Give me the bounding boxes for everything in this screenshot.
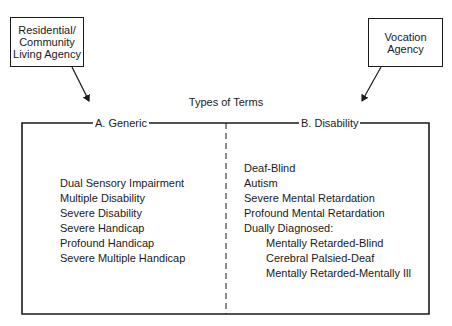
generic-terms-list: Dual Sensory Impairment Multiple Disabil… [60,176,185,266]
agency-label-line: Community [13,36,81,48]
list-item: Deaf-Blind [244,161,411,176]
list-item: Autism [244,176,411,191]
diagram-title: Types of Terms [0,96,452,108]
agency-label-line: Vocation [384,31,426,43]
disability-terms-list: Deaf-Blind Autism Severe Mental Retardat… [244,161,411,281]
list-item: Severe Disability [60,206,185,221]
list-item: Severe Multiple Handicap [60,251,185,266]
agency-label-line: Agency [384,43,426,55]
list-item: Profound Handicap [60,236,185,251]
list-item: Multiple Disability [60,191,185,206]
list-sub-item: Cerebral Palsied-Deaf [244,251,411,266]
disability-column-label: B. Disability [299,117,360,129]
list-item: Dual Sensory Impairment [60,176,185,191]
list-item: Severe Mental Retardation [244,191,411,206]
list-sub-item: Mentally Retarded-Mentally Ill [244,266,411,281]
list-item: Dually Diagnosed: [244,221,411,236]
list-item: Profound Mental Retardation [244,206,411,221]
list-sub-item: Mentally Retarded-Blind [244,236,411,251]
agency-label-line: Residential/ [13,24,81,36]
list-item: Severe Handicap [60,221,185,236]
vocation-agency-box: Vocation Agency [368,18,443,67]
agency-label-line: Living Agency [13,48,81,60]
generic-column-label: A. Generic [93,117,149,129]
residential-community-living-agency-box: Residential/ Community Living Agency [10,17,84,67]
